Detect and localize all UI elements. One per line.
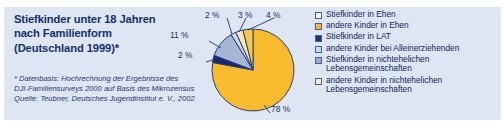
legend-item-andere-kinder-in-ehen[interactable]: andere Kinder in Ehen: [315, 21, 501, 31]
infographic-root: Stiefkinder unter 18 Jahren nach Familie…: [0, 0, 504, 135]
legend-swatch-icon: [315, 57, 322, 64]
source-note-line-1: * Datenbasis: Hochrechnung der Ergebniss…: [14, 74, 219, 84]
pie-label-2-percent-a: 2 %: [205, 10, 219, 20]
pie-chart-svg: [205, 5, 310, 120]
legend-item-stiefkinder-in-lat[interactable]: Stiefkinder in LAT: [315, 32, 501, 42]
legend-swatch-icon: [315, 78, 322, 85]
legend-swatch-icon: [315, 46, 322, 53]
legend-label: andere Kinder bei Alleinerziehenden: [326, 44, 459, 54]
legend-item-stiefkinder-in-nichtehelichen-lebensgemeinschaften[interactable]: Stiefkinder in nichtehelichen Lebensgeme…: [315, 55, 501, 74]
pie-label-4-percent: 4 %: [266, 10, 280, 20]
pie-label-78-percent: 78 %: [271, 104, 290, 114]
pie-label-11-percent: 11 %: [170, 30, 188, 40]
legend-swatch-icon: [315, 35, 322, 42]
chart-legend: Stiefkinder in Ehen andere Kinder in Ehe…: [315, 10, 501, 96]
legend-label: andere Kinder in nichtehelichen Lebensge…: [326, 76, 442, 95]
source-note: * Datenbasis: Hochrechnung der Ergebniss…: [14, 74, 219, 105]
legend-item-andere-kinder-in-nichtehelichen-lebensgemeinschaften[interactable]: andere Kinder in nichtehelichen Lebensge…: [315, 76, 501, 95]
legend-label: Stiefkinder in LAT: [326, 32, 391, 42]
pie-chart: [205, 5, 310, 120]
legend-item-andere-kinder-bei-alleinerziehenden[interactable]: andere Kinder bei Alleinerziehenden: [315, 44, 501, 54]
legend-swatch-icon: [315, 12, 322, 19]
source-note-line-2: DJI-Familiensurveys 2000 auf Basis des M…: [14, 84, 219, 94]
legend-label: Stiefkinder in Ehen: [326, 10, 396, 20]
legend-label: andere Kinder in Ehen: [326, 21, 409, 31]
legend-swatch-icon: [315, 23, 322, 30]
legend-label: Stiefkinder in nichtehelichen Lebensgeme…: [326, 55, 429, 74]
legend-item-stiefkinder-in-ehen[interactable]: Stiefkinder in Ehen: [315, 10, 501, 20]
pie-label-3-percent: 3 %: [238, 10, 252, 20]
leader-line-11: [209, 41, 221, 48]
leader-line-2a: [227, 18, 232, 34]
pie-slices: [212, 29, 294, 111]
source-note-line-3: Quelle: Teubner, Deutsches Jugendinstitu…: [14, 94, 219, 104]
title-line-1: Stiefkinder unter 18 Jahren: [14, 12, 214, 26]
pie-label-2-percent-b: 2 %: [178, 50, 192, 60]
